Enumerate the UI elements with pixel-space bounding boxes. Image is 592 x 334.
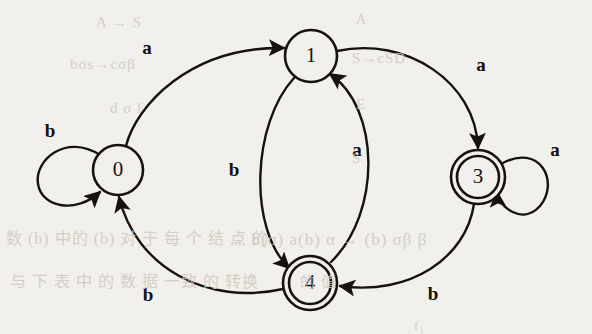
transition-label-1-4-b: b	[229, 159, 240, 180]
transition-label-3-3-a: a	[550, 139, 560, 160]
transition-label-0-1-a: a	[142, 37, 152, 58]
bleed-through-text: 的 值	[300, 270, 337, 291]
bleed-through-text: 与 下 表 中 的 数 据 一致 的 转换	[10, 268, 259, 292]
state-label-1: 1	[306, 43, 317, 67]
transition-label-3-4-b: b	[428, 283, 439, 304]
bleed-through-text: S	[352, 150, 361, 167]
edge-0-to-0-b	[38, 147, 100, 206]
bleed-through-text: → b(σ) a(b) α → (b) σβ β	[228, 230, 427, 250]
state-node-0: 0	[93, 145, 143, 195]
bleed-through-text: S→cSD	[352, 50, 406, 67]
state-node-3: 3	[451, 150, 505, 204]
state-label-3: 3	[473, 164, 484, 188]
bleed-through-text: E	[356, 96, 366, 113]
state-node-1: 1	[285, 30, 337, 82]
bleed-through-text: A	[356, 12, 367, 28]
state-label-0: 0	[113, 157, 124, 181]
bleed-through-text: d σ l	[110, 100, 142, 117]
transition-label-0-0-b: b	[45, 120, 56, 141]
bleed-through-text: A → S	[96, 14, 142, 31]
dfa-figure: A → SAbσs→cσβS→cSDd σ lES数 (b) 中的 (b) 对 …	[0, 0, 592, 334]
bleed-through-text: f₁	[414, 318, 425, 334]
transition-label-1-3-a: a	[476, 54, 486, 75]
bleed-through-text: bσs→cσβ	[70, 56, 136, 73]
edge-0-to-1-a	[126, 48, 284, 146]
